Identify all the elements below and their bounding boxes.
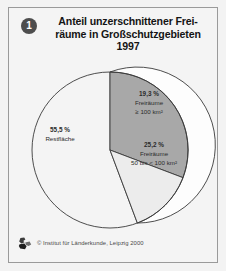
- copyright-text: © Institut für Länderkunde, Leipzig 2000: [37, 240, 144, 246]
- figure-header: 1 Anteil unzerschnittener Frei- räume in…: [9, 8, 217, 60]
- pie-label-freiraeume-50-100: 25,2 % Freiräume 50 bis < 100 km²: [107, 140, 201, 168]
- figure-number-badge: 1: [21, 18, 37, 34]
- pie-label-desc-line-2: ≥ 100 km²: [113, 107, 185, 116]
- pie-label-percent: 19,3 %: [113, 89, 185, 98]
- pie-label-desc-line-2: 50 bis < 100 km²: [107, 158, 201, 167]
- title-line-year: 1997: [42, 40, 214, 53]
- ifl-map-logo-icon: [18, 237, 32, 250]
- figure-footer: © Institut für Länderkunde, Leipzig 2000: [18, 233, 144, 253]
- pie-label-desc-line-1: Freiräume: [107, 149, 201, 158]
- pie-label-desc-line-1: Restfläche: [21, 134, 99, 143]
- figure-card: 1 Anteil unzerschnittener Frei- räume in…: [0, 0, 226, 271]
- pie-label-restflaeche: 55,5 % Restfläche: [21, 125, 99, 143]
- pie-label-freiraeume-ge-100: 19,3 % Freiräume ≥ 100 km²: [113, 89, 185, 117]
- pie-label-percent: 25,2 %: [107, 140, 201, 149]
- title-line-2: räume in Großschutzgebieten: [42, 28, 214, 41]
- pie-chart: 19,3 % Freiräume ≥ 100 km² 25,2 % Freirä…: [9, 56, 217, 232]
- pie-label-percent: 55,5 %: [21, 125, 99, 134]
- figure-title: Anteil unzerschnittener Frei- räume in G…: [42, 15, 214, 53]
- title-line-1: Anteil unzerschnittener Frei-: [42, 15, 214, 28]
- pie-label-desc-line-1: Freiräume: [113, 98, 185, 107]
